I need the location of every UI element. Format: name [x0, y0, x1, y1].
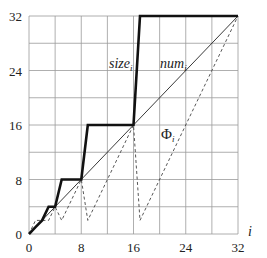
y-tick-label: 16 — [9, 118, 23, 133]
x-tick-label: 16 — [127, 240, 141, 255]
x-tick-label: 8 — [78, 240, 85, 255]
x-tick-label: 24 — [179, 240, 193, 255]
x-tick-label: 0 — [26, 240, 33, 255]
num-label: numi — [160, 56, 187, 73]
y-tick-label: 32 — [9, 9, 22, 24]
chart: 0816243208162432 i sizei numi Φi — [0, 0, 267, 258]
y-tick-label: 8 — [16, 173, 23, 188]
size-label: sizei — [109, 56, 133, 73]
x-axis-label: i — [248, 224, 252, 239]
x-tick-label: 32 — [232, 240, 245, 255]
phi-label: Φi — [161, 126, 175, 144]
y-tick-label: 24 — [9, 64, 23, 79]
y-tick-label: 0 — [16, 227, 23, 242]
